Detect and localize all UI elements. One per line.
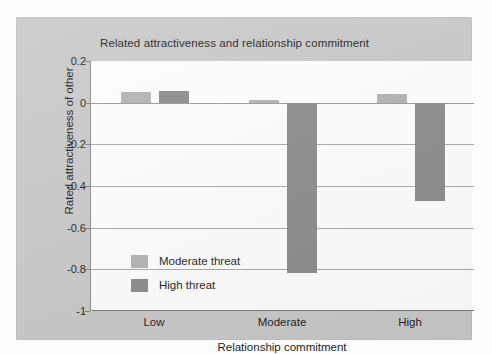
x-tick-label-moderate: Moderate — [258, 316, 307, 328]
x-tick-label-high: High — [398, 316, 422, 328]
chart-panel: Related attractiveness and relationship … — [16, 17, 472, 340]
gridline--0.6 — [91, 228, 474, 229]
legend-label: Moderate threat — [159, 255, 240, 267]
chart-legend: Moderate threatHigh threat — [131, 249, 291, 297]
y-axis-tick-labels: 0.20-0.2-0.4-0.6-0.8-1 — [42, 61, 86, 311]
y-tick-label: 0.2 — [71, 55, 86, 67]
y-tick-label: -0.4 — [67, 180, 86, 192]
figure-container: Related attractiveness and relationship … — [0, 0, 492, 354]
x-axis-title: Relationship commitment — [90, 341, 474, 353]
bar-high-high-threat — [415, 103, 445, 201]
legend-swatch-icon — [131, 255, 148, 268]
legend-swatch-icon — [131, 279, 148, 292]
legend-item: High threat — [131, 273, 291, 297]
gridline--1 — [91, 310, 474, 311]
bar-high-moderate-threat — [377, 94, 407, 102]
legend-label: High threat — [159, 279, 215, 291]
y-tick-label: -0.6 — [67, 222, 86, 234]
y-tick-label: -0.2 — [67, 138, 86, 150]
legend-item: Moderate threat — [131, 249, 291, 273]
x-tick-label-low: Low — [143, 316, 164, 328]
chart-title: Related attractiveness and relationship … — [100, 37, 369, 49]
plot-area: Moderate threatHigh threat — [90, 61, 474, 311]
y-tick-label: -0.8 — [67, 263, 86, 275]
bar-low-high-threat — [159, 91, 189, 102]
y-tick-mark — [85, 311, 90, 312]
bar-moderate-high-threat — [287, 103, 317, 274]
bar-moderate-moderate-threat — [249, 100, 279, 103]
bar-low-moderate-threat — [121, 92, 151, 102]
